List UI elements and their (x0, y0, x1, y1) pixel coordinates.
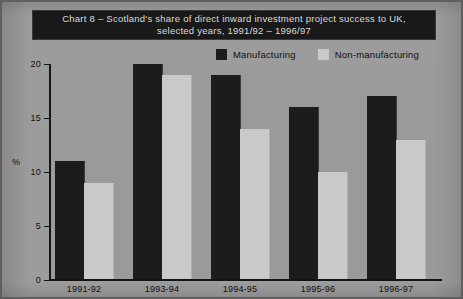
bar-non-manufacturing-1993-94 (162, 75, 192, 280)
bar-non-manufacturing-1995-96 (318, 172, 348, 280)
chart-title-banner: Chart 8 – Scotland's share of direct inw… (32, 10, 436, 40)
chart-figure: Chart 8 – Scotland's share of direct inw… (0, 0, 463, 299)
bar-manufacturing-1993-94 (133, 64, 163, 280)
bar-manufacturing-1991-92 (55, 161, 85, 280)
plot-area: 05101520 (49, 64, 439, 280)
legend-item-manufacturing: Manufacturing (216, 49, 296, 60)
chart-title-line-1: Chart 8 – Scotland's share of direct inw… (62, 13, 406, 25)
bar-manufacturing-1995-96 (289, 107, 319, 280)
x-axis-label-1995-96: 1995-96 (301, 284, 335, 294)
y-axis-line (49, 64, 51, 281)
legend-swatch-icon-manufacturing (216, 49, 227, 60)
legend-item-non-manufacturing: Non-manufacturing (318, 49, 419, 60)
legend-label-non-manufacturing: Non-manufacturing (335, 49, 419, 60)
bar-non-manufacturing-1991-92 (84, 183, 114, 280)
bar-non-manufacturing-1996-97 (396, 140, 426, 280)
y-tick-label: 20 (31, 59, 41, 69)
bar-manufacturing-1996-97 (367, 96, 397, 280)
x-axis-label-1996-97: 1996-97 (379, 284, 413, 294)
bar-manufacturing-1994-95 (211, 75, 241, 280)
x-axis-label-1991-92: 1991-92 (67, 284, 101, 294)
y-tick-label: 0 (36, 275, 41, 285)
chart-title-line-2: selected years, 1991/92 – 1996/97 (157, 25, 311, 37)
x-axis-label-1993-94: 1993-94 (145, 284, 179, 294)
y-tick-label: 15 (31, 113, 41, 123)
legend-label-manufacturing: Manufacturing (233, 49, 296, 60)
x-axis-line (49, 279, 442, 281)
x-axis-label-1994-95: 1994-95 (223, 284, 257, 294)
y-tick-label: 10 (31, 167, 41, 177)
y-tick-label: 5 (36, 221, 41, 231)
y-axis-title: % (12, 157, 20, 167)
bar-non-manufacturing-1994-95 (240, 129, 270, 280)
legend-swatch-icon-non-manufacturing (318, 49, 329, 60)
chart-legend: Manufacturing Non-manufacturing (216, 49, 419, 60)
